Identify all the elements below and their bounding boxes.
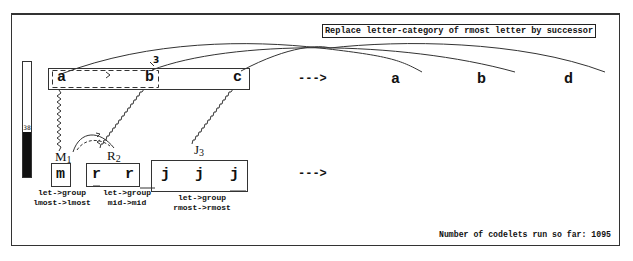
modified-letter-a: a <box>391 72 400 87</box>
connection-lines <box>0 0 633 261</box>
codelets-count: Number of codelets run so far: 1095 <box>439 230 611 239</box>
initial-letter-c: c <box>233 70 242 85</box>
group-direction-icon <box>106 72 110 78</box>
initial-letter-a: a <box>57 70 66 85</box>
target-letter-j3: j <box>230 167 239 182</box>
modified-letter-b: b <box>477 72 486 87</box>
target-letter-m: m <box>56 167 65 182</box>
target-to-answer-arrow: ---> <box>298 168 327 180</box>
target-letter-j2: j <box>195 167 204 182</box>
target-letter-j1: j <box>161 167 170 182</box>
target-letter-r1: r <box>92 167 101 182</box>
initial-to-modified-arrow: ---> <box>298 73 327 85</box>
mapping-label-m: let->group lmost->lmost <box>32 188 92 208</box>
target-letter-r2: r <box>125 167 134 182</box>
modified-letter-d: d <box>564 72 573 87</box>
group-label-j: J3 <box>194 143 204 159</box>
bond-strength-label: 3 <box>153 55 159 65</box>
initial-group-box <box>53 71 159 88</box>
mapping-label-r: let->group mid->mid <box>100 188 154 208</box>
mapping-label-j: let->group rmost->rmost <box>170 193 234 213</box>
initial-letter-b: b <box>145 70 154 85</box>
